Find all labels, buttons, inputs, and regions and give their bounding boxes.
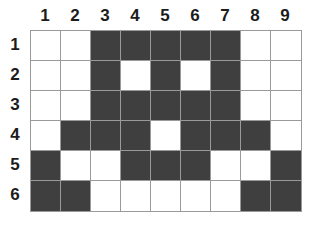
- row-header-1: 1: [2, 30, 28, 60]
- column-header-8: 8: [240, 3, 270, 29]
- grid-cell[interactable]: [121, 61, 151, 91]
- pixel-grid-figure: 1 2 3 4 5 6 7 8 9 1 2 3 4 5 6: [0, 0, 316, 225]
- grid-cell[interactable]: [91, 31, 121, 61]
- row-header-5: 5: [2, 150, 28, 180]
- grid-cell[interactable]: [151, 181, 181, 211]
- row-header-3: 3: [2, 90, 28, 120]
- grid-cell[interactable]: [61, 121, 91, 151]
- grid-cell[interactable]: [241, 151, 271, 181]
- column-header-6: 6: [180, 3, 210, 29]
- grid-cell[interactable]: [91, 121, 121, 151]
- grid-cell[interactable]: [211, 31, 241, 61]
- grid-cell[interactable]: [181, 31, 211, 61]
- grid-cell[interactable]: [91, 61, 121, 91]
- grid-row: [31, 61, 301, 91]
- grid-cell[interactable]: [271, 91, 301, 121]
- grid-cell[interactable]: [61, 181, 91, 211]
- row-header-column: 1 2 3 4 5 6: [2, 30, 28, 210]
- grid-cell[interactable]: [91, 151, 121, 181]
- row-header-4: 4: [2, 120, 28, 150]
- column-header-3: 3: [90, 3, 120, 29]
- grid-cell[interactable]: [241, 61, 271, 91]
- grid-cell[interactable]: [31, 121, 61, 151]
- grid-cell[interactable]: [121, 181, 151, 211]
- grid-cell[interactable]: [211, 91, 241, 121]
- grid-cell[interactable]: [121, 91, 151, 121]
- grid-row: [31, 151, 301, 181]
- grid-cell[interactable]: [271, 121, 301, 151]
- grid-cell[interactable]: [181, 91, 211, 121]
- column-header-row: 1 2 3 4 5 6 7 8 9: [30, 3, 300, 29]
- grid-cell[interactable]: [31, 181, 61, 211]
- grid-cell[interactable]: [271, 31, 301, 61]
- grid-row: [31, 31, 301, 61]
- column-header-9: 9: [270, 3, 300, 29]
- grid-cell[interactable]: [151, 61, 181, 91]
- grid-cell[interactable]: [61, 151, 91, 181]
- grid-cell[interactable]: [211, 181, 241, 211]
- grid-cell[interactable]: [61, 91, 91, 121]
- grid-cell[interactable]: [181, 151, 211, 181]
- grid-cell[interactable]: [271, 151, 301, 181]
- grid-cell[interactable]: [211, 121, 241, 151]
- grid-cell[interactable]: [241, 181, 271, 211]
- column-header-7: 7: [210, 3, 240, 29]
- grid-cell[interactable]: [151, 121, 181, 151]
- grid-cell[interactable]: [271, 181, 301, 211]
- grid-cell[interactable]: [121, 31, 151, 61]
- grid-body: [30, 30, 302, 212]
- grid-cell[interactable]: [121, 121, 151, 151]
- grid-cell[interactable]: [31, 151, 61, 181]
- grid-cell[interactable]: [61, 31, 91, 61]
- grid-row: [31, 181, 301, 211]
- grid-cell[interactable]: [211, 151, 241, 181]
- grid-cell[interactable]: [181, 61, 211, 91]
- grid-cell[interactable]: [151, 91, 181, 121]
- grid-row: [31, 91, 301, 121]
- grid-cell[interactable]: [241, 31, 271, 61]
- grid-cell[interactable]: [241, 91, 271, 121]
- column-header-2: 2: [60, 3, 90, 29]
- grid-cell[interactable]: [211, 61, 241, 91]
- grid-cell[interactable]: [91, 91, 121, 121]
- grid-cell[interactable]: [31, 91, 61, 121]
- grid-cell[interactable]: [271, 61, 301, 91]
- column-header-1: 1: [30, 3, 60, 29]
- grid-cell[interactable]: [151, 151, 181, 181]
- column-header-5: 5: [150, 3, 180, 29]
- column-header-4: 4: [120, 3, 150, 29]
- grid-cell[interactable]: [181, 121, 211, 151]
- row-header-6: 6: [2, 180, 28, 210]
- grid-cell[interactable]: [61, 61, 91, 91]
- grid-cell[interactable]: [241, 121, 271, 151]
- grid-row: [31, 121, 301, 151]
- grid-cell[interactable]: [151, 31, 181, 61]
- row-header-2: 2: [2, 60, 28, 90]
- grid-cell[interactable]: [31, 61, 61, 91]
- grid-cell[interactable]: [31, 31, 61, 61]
- grid-cell[interactable]: [91, 181, 121, 211]
- grid-cell[interactable]: [181, 181, 211, 211]
- grid-cell[interactable]: [121, 151, 151, 181]
